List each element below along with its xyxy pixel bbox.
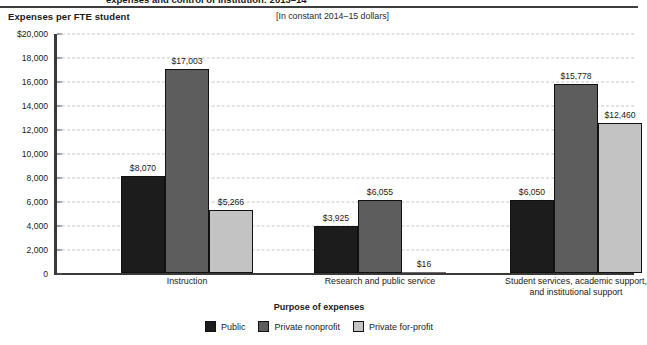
bar[interactable] <box>402 272 446 273</box>
bar[interactable] <box>598 123 642 273</box>
bar[interactable] <box>165 69 209 273</box>
bar-value-label: $6,055 <box>367 187 393 197</box>
bar[interactable] <box>314 226 358 273</box>
category-label-line: and institutional support <box>505 287 647 298</box>
legend-label: Public <box>221 322 246 332</box>
y-tick-label: $20,000 <box>17 29 48 39</box>
plot-area: 02,0004,0006,0008,00010,00012,00014,0001… <box>0 30 638 280</box>
y-tick-mark <box>57 130 62 131</box>
y-axis-tick-labels: 02,0004,0006,0008,00010,00012,00014,0001… <box>0 30 52 274</box>
bars-layer: $8,070$17,003$5,266$3,925$6,055$16$6,050… <box>57 30 634 274</box>
legend-item[interactable]: Private for-profit <box>353 321 433 332</box>
bar-value-label: $16 <box>417 259 431 269</box>
bar[interactable] <box>121 176 165 273</box>
y-tick-mark <box>57 202 62 203</box>
legend-swatch-icon <box>205 321 216 332</box>
category-label: Student services, academic support,and i… <box>505 276 647 298</box>
y-tick-label: 14,000 <box>22 101 48 111</box>
category-label: Instruction <box>167 276 208 287</box>
y-tick-mark <box>57 274 62 275</box>
bar[interactable] <box>358 200 402 273</box>
legend-label: Private for-profit <box>369 322 433 332</box>
y-tick-mark <box>57 34 62 35</box>
constant-dollars-note: [In constant 2014–15 dollars] <box>276 11 389 21</box>
y-tick-mark <box>57 226 62 227</box>
y-tick-label: 8,000 <box>26 173 48 183</box>
bar-value-label: $8,070 <box>130 163 156 173</box>
bar-value-label: $6,050 <box>519 187 545 197</box>
y-tick-mark <box>57 58 62 59</box>
bar[interactable] <box>209 210 253 273</box>
legend-swatch-icon <box>258 321 269 332</box>
bar-group: $6,050$15,778$12,460 <box>510 30 642 273</box>
y-axis-title: Expenses per FTE student <box>8 11 130 22</box>
y-tick-mark <box>57 82 62 83</box>
chart-subheader: Expenses per FTE student [In constant 20… <box>0 11 638 29</box>
bar[interactable] <box>510 200 554 273</box>
y-tick-label: 10,000 <box>22 149 48 159</box>
legend-item[interactable]: Public <box>205 321 246 332</box>
category-label-line: Instruction <box>167 276 208 287</box>
y-tick-label: 12,000 <box>22 125 48 135</box>
y-tick-mark <box>57 106 62 107</box>
bar-value-label: $5,266 <box>218 197 244 207</box>
chart-legend: PublicPrivate nonprofitPrivate for-profi… <box>0 321 638 332</box>
legend-label: Private nonprofit <box>274 322 340 332</box>
y-tick-label: 2,000 <box>26 245 48 255</box>
legend-swatch-icon <box>353 321 364 332</box>
bar-value-label: $17,003 <box>171 56 202 66</box>
y-tick-label: 6,000 <box>26 197 48 207</box>
bar-group: $8,070$17,003$5,266 <box>121 30 253 273</box>
bar-value-label: $15,778 <box>560 71 591 81</box>
y-tick-mark <box>57 250 62 251</box>
y-tick-mark <box>57 178 62 179</box>
category-label: Research and public service <box>325 276 436 287</box>
y-tick-label: 18,000 <box>22 53 48 63</box>
bar-value-label: $3,925 <box>323 213 349 223</box>
y-tick-label: 16,000 <box>22 77 48 87</box>
y-tick-label: 0 <box>43 269 48 279</box>
header-divider <box>0 6 638 8</box>
category-label-line: Student services, academic support, <box>505 276 647 287</box>
figure-title: expenses and control of institution: 201… <box>106 0 307 5</box>
bar-group: $3,925$6,055$16 <box>314 30 446 273</box>
legend-item[interactable]: Private nonprofit <box>258 321 340 332</box>
y-tick-label: 4,000 <box>26 221 48 231</box>
bar-value-label: $12,460 <box>604 110 635 120</box>
x-axis-title: Purpose of expenses <box>0 302 638 312</box>
bar[interactable] <box>554 84 598 273</box>
y-tick-mark <box>57 154 62 155</box>
category-label-line: Research and public service <box>325 276 436 287</box>
